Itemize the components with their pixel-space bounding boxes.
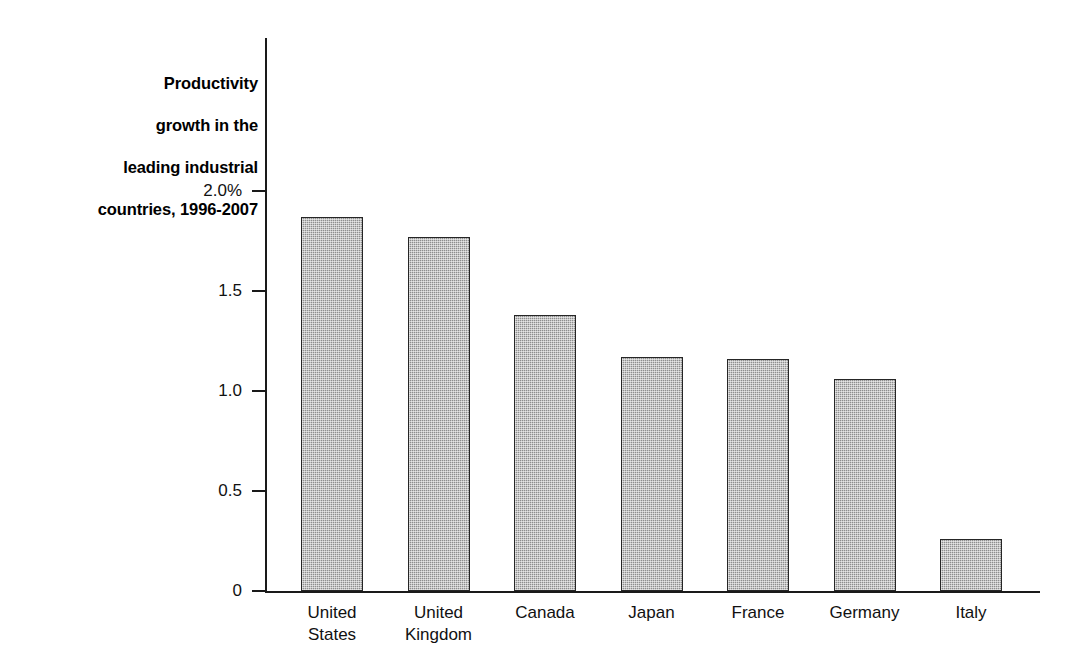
x-axis-category-label: Japan [592, 602, 712, 624]
y-axis-tick-label: 1.5 [150, 282, 242, 299]
x-axis-line [265, 591, 1040, 593]
y-axis-tick [252, 190, 266, 192]
y-axis-line [265, 38, 267, 593]
y-axis-tick [252, 490, 266, 492]
chart-title-line-2: growth in the [40, 115, 258, 136]
y-axis-tick-label-text: 1.5 [150, 282, 242, 299]
y-axis-tick-label: 0 [150, 582, 242, 599]
y-axis-tick [252, 590, 266, 592]
y-axis-tick [252, 290, 266, 292]
x-axis-category-label: United States [272, 602, 392, 646]
y-axis-tick-label-text: 0.5 [150, 482, 242, 499]
y-axis-tick-label-text: 1.0 [150, 382, 242, 399]
y-axis-tick-label-text: 2.0% [150, 182, 242, 199]
chart-title: Productivity growth in the leading indus… [40, 52, 258, 241]
bar [940, 539, 1002, 591]
y-axis-tick-label: 1.0 [150, 382, 242, 399]
y-axis-tick-label-text: 0 [150, 582, 242, 599]
x-axis-category-label: Italy [911, 602, 1031, 624]
bar [621, 357, 683, 591]
chart-title-line-4: countries, 1996-2007 [40, 199, 258, 220]
x-axis-category-label: Canada [485, 602, 605, 624]
bar [514, 315, 576, 591]
y-axis-tick-label: 2.0% [150, 182, 242, 199]
chart-figure: Productivity growth in the leading indus… [0, 0, 1068, 657]
y-axis-tick [252, 390, 266, 392]
bar [727, 359, 789, 591]
x-axis-category-label: France [698, 602, 818, 624]
bar [834, 379, 896, 591]
bar [301, 217, 363, 591]
chart-title-line-3: leading industrial [40, 157, 258, 178]
y-axis-tick-label: 0.5 [150, 482, 242, 499]
x-axis-category-label: United Kingdom [379, 602, 499, 646]
x-axis-category-label: Germany [805, 602, 925, 624]
chart-title-line-1: Productivity [40, 73, 258, 94]
bar [408, 237, 470, 591]
